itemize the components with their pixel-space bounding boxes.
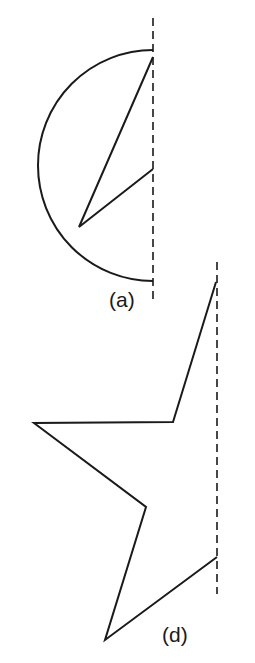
figure-d-label: (d) [162,623,188,646]
figure-a-zigzag [79,57,153,227]
figure-a-label: (a) [109,288,135,311]
figure-a-semicircle [38,50,153,281]
figure-a: (a) [38,18,153,311]
figure-d: (d) [34,262,217,646]
figure-canvas: (a) (d) [0,0,255,663]
figure-d-star-outline [34,282,217,640]
